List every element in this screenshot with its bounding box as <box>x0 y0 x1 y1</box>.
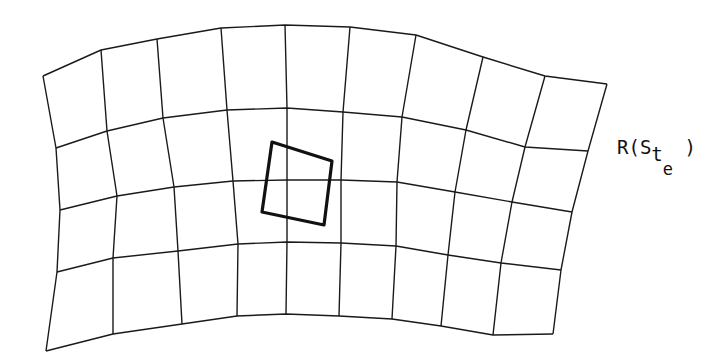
grid-column-line <box>339 27 350 316</box>
grid-row-line <box>56 108 588 151</box>
grid-column-line <box>285 25 287 314</box>
grid-row-line <box>46 314 553 351</box>
region-label-subscript: te <box>651 143 673 165</box>
grid-column-line <box>221 28 238 316</box>
region-label-suffix: ) <box>673 136 696 158</box>
grid-column-line <box>101 50 117 334</box>
grid-column-lines <box>43 25 607 351</box>
highlighted-cell <box>262 142 332 225</box>
region-label: R(Ste ) <box>617 136 696 158</box>
grid-column-line <box>43 76 60 351</box>
grid-row-line <box>57 242 561 272</box>
grid-row-line <box>60 180 572 212</box>
deformed-grid-diagram <box>0 0 723 360</box>
grid-row-line <box>43 25 607 84</box>
grid-column-line <box>441 57 483 326</box>
region-label-prefix: R(S <box>617 136 651 158</box>
grid-column-line <box>157 39 182 324</box>
grid-column-line <box>392 35 416 319</box>
grid-column-line <box>553 84 607 334</box>
grid-row-lines <box>43 25 607 351</box>
region-label-subsubscript: e <box>663 159 673 179</box>
